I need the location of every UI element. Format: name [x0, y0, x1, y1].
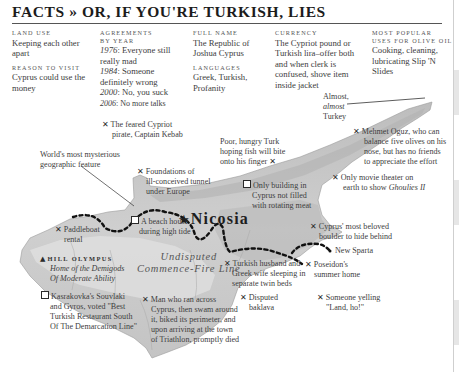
text-line: ill-conceived tunnel	[146, 177, 211, 186]
text-line: Poseidon's	[314, 260, 348, 269]
text-line: World's most mysterious	[40, 150, 120, 159]
text-line: of Triathlon, promptly died	[151, 335, 239, 344]
annotation-poseidon: ✕ Poseidon's summer home	[305, 260, 360, 280]
square-marker-icon	[243, 180, 251, 188]
text-line: earth to show	[343, 183, 389, 192]
text-line: Almost,	[323, 92, 349, 101]
x-mark-icon: ✕	[269, 157, 276, 166]
page-edge-shade	[454, 70, 459, 115]
annotation-hill-olympus: ▲ HILL OLYMPUS Home of the Demigods Of M…	[40, 254, 124, 284]
text-line: boulder to hide behind	[319, 232, 392, 241]
x-mark-icon: ✕	[137, 167, 144, 176]
new-sparta-dot	[329, 250, 332, 253]
text-line: Turkey	[323, 112, 346, 121]
text-line: baklava	[249, 303, 274, 312]
text-line: Only building in	[253, 181, 307, 190]
text-line: Poor, hungry Turk	[220, 137, 279, 146]
text-line: Mehmet Oguz, who can	[362, 127, 440, 136]
text-line: Foundations of	[146, 167, 195, 176]
text-line: under Europe	[146, 187, 190, 196]
x-mark-icon: ✕	[102, 120, 109, 129]
x-mark-icon: ✕	[240, 293, 247, 302]
text-line: Greek wife sleeping in	[232, 269, 306, 278]
text-line: Someone yelling	[326, 293, 381, 302]
annotation-captain-kebab: ✕ The feared Cypriot pirate, Captain Keb…	[102, 120, 183, 140]
capital-nicosia: ★Nicosia	[178, 210, 249, 228]
page-edge-shade	[454, 180, 459, 225]
annotation-boulder: ✕ Cyprus' most beloved boulder to hide b…	[310, 222, 392, 242]
star-capital-icon: ★	[178, 212, 191, 227]
text-line: Only movie theater on	[341, 173, 414, 182]
annotation-new-sparta: New Sparta	[335, 246, 373, 256]
x-mark-icon: ✕	[55, 225, 62, 234]
annotation-baklava: ✕ Disputed baklava	[240, 293, 278, 313]
annotation-hungry-turk: Poor, hungry Turk hoping fish will bite …	[220, 137, 285, 167]
text-line: Of Moderate Ability	[50, 274, 115, 283]
text-line: The feared Cypriot	[111, 120, 173, 129]
square-marker-icon	[41, 291, 49, 299]
text-line: nose, but has no friends	[364, 147, 441, 156]
text-line: Home of the Demigods	[50, 264, 124, 273]
text-line: upon arriving at the town	[151, 325, 233, 334]
text-line: Turkish husband and	[233, 259, 301, 268]
text-line: Cyprus, then swam around	[151, 305, 238, 314]
x-mark-icon: ✕	[353, 127, 360, 136]
olympus-label: HILL OLYMPUS	[47, 255, 112, 262]
annotation-movie-theater: ✕ Only movie theater on earth to show Gh…	[332, 173, 425, 193]
text-line: hoping fish will bite	[220, 147, 285, 156]
x-mark-icon: ✕	[310, 222, 317, 231]
text-line: pirate, Captain Kebab	[112, 130, 183, 139]
text-line: Disputed	[249, 293, 278, 302]
text-line: geographic feature	[40, 160, 100, 169]
annotation-triathlon: ✕ Man who ran across Cyprus, then swam a…	[142, 295, 239, 345]
text-line: Of The Demarcation Line"	[50, 322, 137, 331]
annotation-almost-turkey: Almost, almost Turkey	[323, 92, 349, 122]
x-mark-icon: ✕	[142, 295, 149, 304]
text-line: Man who ran across	[151, 295, 216, 304]
text-line: with rotating meat	[252, 201, 311, 210]
text-line: during high tide	[139, 227, 191, 236]
text-line: it, biked its perimeter, and	[151, 315, 236, 324]
square-marker-icon	[131, 216, 139, 224]
annotation-mysterious-feature: World's most mysterious geographic featu…	[40, 150, 120, 170]
text-line: Cyprus' most beloved	[319, 222, 389, 231]
x-mark-icon: ✕	[332, 173, 339, 182]
text-line: "Land, ho!"	[326, 303, 364, 312]
text-line: Turkish Restaurant South	[50, 312, 132, 321]
triangle-mountain-icon: ▲	[40, 255, 45, 263]
text-line: and Gyros, voted "Best	[50, 302, 125, 311]
annotation-mehmet: ✕ Mehmet Oguz, who can balance five oliv…	[353, 127, 446, 167]
text-line: Kasrakovka's Souvlaki	[51, 292, 125, 301]
x-mark-icon: ✕	[317, 293, 324, 302]
text-line: summer home	[314, 270, 360, 279]
pointer-line-mysterious	[81, 166, 134, 206]
annotation-souvlaki: Kasrakovka's Souvlaki and Gyros, voted "…	[41, 291, 137, 332]
movie-title: Ghoulies II	[389, 183, 426, 192]
line-label-1: Undisputed	[161, 251, 217, 262]
annotation-land-ho: ✕ Someone yelling "Land, ho!"	[317, 293, 380, 313]
annotation-rotating-meat: Only building in Cyprus not filled with …	[243, 180, 311, 211]
text-line: Cyprus not filled	[252, 191, 307, 200]
text-line: to appreciate the effort	[364, 157, 437, 166]
text-line: almost	[323, 102, 345, 111]
text-line: Paddleboat	[64, 225, 100, 234]
text-line: onto his finger	[220, 157, 267, 166]
annotation-tunnel: ✕ Foundations of ill-conceived tunnel un…	[137, 167, 211, 197]
text-line: balance five olives on his	[364, 137, 446, 146]
text-line: separate twin beds	[232, 279, 292, 288]
x-mark-icon: ✕	[305, 260, 312, 269]
annotation-twin-beds: ✕ Turkish husband and Greek wife sleepin…	[224, 259, 306, 289]
pointer-line-almost-turkey	[347, 98, 425, 104]
capital-label: Nicosia	[191, 210, 249, 227]
annotation-paddleboat: ✕ Paddleboat rental	[55, 225, 100, 245]
text-line: rental	[64, 235, 82, 244]
x-mark-icon: ✕	[224, 259, 231, 268]
page-edge-shade	[454, 300, 459, 345]
